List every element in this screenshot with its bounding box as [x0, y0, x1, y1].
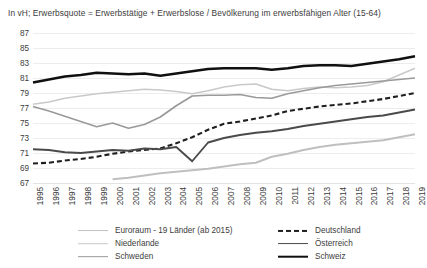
y-axis-tick-label: 81	[20, 74, 33, 83]
legend-column-left: Euroraum - 19 Länder (ab 2015)Niederland…	[78, 224, 232, 263]
legend-swatch-icon	[278, 252, 308, 262]
x-axis-tick-label: 2000	[116, 187, 125, 205]
legend-label: Österreich	[315, 239, 353, 248]
legend-swatch-icon	[78, 226, 108, 236]
x-axis-tick-label: 1998	[84, 187, 93, 205]
y-axis-tick-label: 71	[20, 149, 33, 158]
series-line	[33, 56, 415, 82]
y-axis-tick-label: 87	[20, 29, 33, 38]
x-axis-tick-label: 2018	[402, 187, 411, 205]
y-axis-tick-label: 79	[20, 89, 33, 98]
y-axis-tick-label: 75	[20, 119, 33, 128]
legend-label: Schweiz	[315, 252, 346, 261]
chart-legend: Euroraum - 19 Länder (ab 2015)Niederland…	[0, 224, 427, 268]
x-axis-tick-label: 2008	[243, 187, 252, 205]
legend-label: Schweden	[115, 252, 153, 261]
x-axis-tick-label: 2011	[291, 187, 300, 205]
y-axis-tick-label: 77	[20, 104, 33, 113]
series-line	[33, 110, 415, 162]
x-axis-tick-label: 2015	[355, 187, 364, 205]
x-axis-tick-label: 1995	[36, 187, 45, 205]
legend-label: Euroraum - 19 Länder (ab 2015)	[115, 226, 232, 235]
legend-swatch-icon	[278, 226, 308, 236]
x-axis-tick-label: 2003	[164, 187, 173, 205]
x-axis-tick-label: 2002	[148, 187, 157, 205]
x-axis-tick-label: 2014	[339, 187, 348, 205]
x-axis-tick-label: 2006	[211, 187, 220, 205]
series-line	[113, 134, 415, 179]
legend-item[interactable]: Schweden	[78, 250, 232, 263]
x-axis-tick-label: 2005	[195, 187, 204, 205]
legend-column-right: DeutschlandÖsterreichSchweiz	[278, 224, 361, 263]
legend-label: Deutschland	[315, 226, 361, 235]
x-axis-tick-label: 2019	[418, 187, 427, 205]
x-axis-tick-label: 2004	[179, 187, 188, 205]
x-axis-tick-label: 2017	[386, 187, 395, 205]
x-axis-tick-label: 1997	[68, 187, 77, 205]
legend-swatch-icon	[78, 239, 108, 249]
legend-item[interactable]: Schweiz	[278, 250, 361, 263]
y-axis-tick-label: 69	[20, 164, 33, 173]
series-lines	[33, 33, 415, 183]
legend-label: Niederlande	[115, 239, 159, 248]
gridline	[33, 183, 415, 184]
legend-swatch-icon	[278, 239, 308, 249]
y-axis-tick-label: 67	[20, 179, 33, 188]
plot-area: 8785838179777573716967 19951996199719981…	[33, 33, 415, 183]
legend-item[interactable]: Euroraum - 19 Länder (ab 2015)	[78, 224, 232, 237]
x-axis-tick-label: 1999	[100, 187, 109, 205]
x-axis-tick-label: 1996	[52, 187, 61, 205]
x-axis-tick-label: 2009	[259, 187, 268, 205]
legend-item[interactable]: Niederlande	[78, 237, 232, 250]
chart-container: In vH; Erwerbsquote = Erwerbstätige + Er…	[0, 0, 427, 268]
legend-item[interactable]: Österreich	[278, 237, 361, 250]
legend-swatch-icon	[78, 252, 108, 262]
x-axis-tick-label: 2010	[275, 187, 284, 205]
y-axis-tick-label: 85	[20, 44, 33, 53]
x-axis-tick-label: 2016	[370, 187, 379, 205]
x-axis-tick-label: 2012	[307, 187, 316, 205]
chart-title: In vH; Erwerbsquote = Erwerbstätige + Er…	[8, 8, 381, 18]
x-axis-tick-label: 2007	[227, 187, 236, 205]
x-axis-tick-label: 2013	[323, 187, 332, 205]
x-axis-tick-label: 2001	[132, 187, 141, 205]
y-axis-tick-label: 73	[20, 134, 33, 143]
legend-item[interactable]: Deutschland	[278, 224, 361, 237]
y-axis-tick-label: 83	[20, 59, 33, 68]
